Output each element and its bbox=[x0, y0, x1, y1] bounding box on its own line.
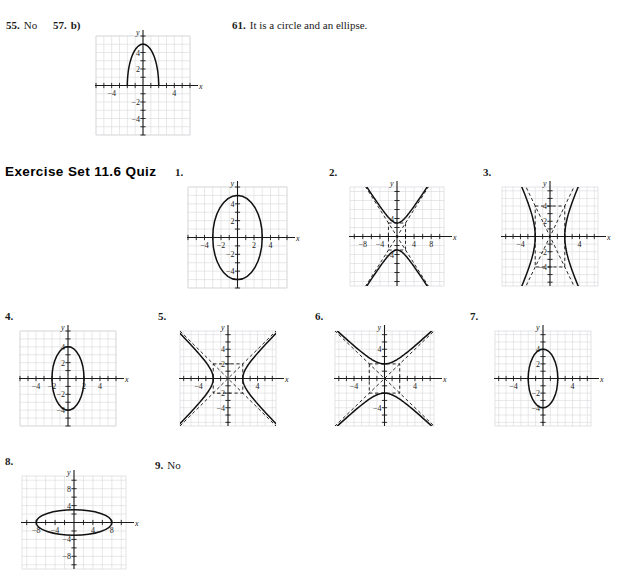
svg-text:y: y bbox=[66, 468, 71, 477]
svg-text:8: 8 bbox=[429, 240, 433, 249]
graph-8: xy−8−448−8−448 bbox=[20, 467, 140, 579]
svg-text:4: 4 bbox=[221, 345, 225, 354]
svg-text:−4: −4 bbox=[538, 263, 547, 272]
svg-text:y: y bbox=[60, 323, 65, 332]
svg-text:x: x bbox=[442, 375, 447, 384]
item-label-7: 7. bbox=[470, 310, 478, 322]
answer-61: 61. It is a circle and an ellipse. bbox=[232, 15, 367, 33]
svg-text:−2: −2 bbox=[217, 241, 226, 250]
svg-text:4: 4 bbox=[98, 382, 102, 391]
answer-55-text: No bbox=[24, 19, 37, 31]
svg-text:x: x bbox=[198, 82, 203, 91]
item-label-8: 8. bbox=[5, 455, 13, 467]
item-label-1: 1. bbox=[175, 166, 183, 178]
answer-61-text: It is a circle and an ellipse. bbox=[250, 19, 368, 31]
svg-text:y: y bbox=[220, 323, 225, 332]
answer-57-text: b) bbox=[71, 19, 81, 31]
graph-8-svg: xy−8−448−8−448 bbox=[20, 467, 140, 579]
graph-2: xy−8−448−44 bbox=[348, 178, 458, 296]
svg-text:4: 4 bbox=[571, 382, 575, 391]
graph-1: xy−4−224−4−224 bbox=[186, 178, 301, 298]
svg-text:−4: −4 bbox=[373, 404, 382, 413]
svg-text:x: x bbox=[606, 233, 611, 242]
svg-text:4: 4 bbox=[231, 200, 235, 209]
svg-text:x: x bbox=[295, 234, 300, 243]
svg-text:4: 4 bbox=[136, 49, 140, 58]
svg-text:−4: −4 bbox=[200, 241, 209, 250]
answer-57-number: 57. bbox=[53, 19, 67, 31]
svg-text:−4: −4 bbox=[131, 115, 140, 124]
svg-text:−8: −8 bbox=[62, 552, 71, 561]
svg-text:y: y bbox=[542, 179, 547, 188]
svg-text:2: 2 bbox=[543, 217, 547, 226]
svg-text:−4: −4 bbox=[107, 89, 116, 98]
svg-text:4: 4 bbox=[412, 240, 416, 249]
svg-text:4: 4 bbox=[378, 345, 382, 354]
graph-4: xy−4−224−4−224 bbox=[18, 322, 130, 436]
svg-text:−4: −4 bbox=[509, 382, 518, 391]
answer-61-number: 61. bbox=[232, 19, 246, 31]
graph-1-svg: xy−4−224−4−224 bbox=[186, 178, 301, 298]
svg-text:−2: −2 bbox=[216, 389, 225, 398]
svg-text:4: 4 bbox=[543, 202, 547, 211]
svg-text:8: 8 bbox=[67, 485, 71, 494]
svg-text:2: 2 bbox=[221, 360, 225, 369]
svg-text:y: y bbox=[535, 323, 540, 332]
svg-text:x: x bbox=[599, 375, 604, 384]
answer-9-text: No bbox=[167, 459, 180, 471]
answer-55-number: 55. bbox=[6, 19, 20, 31]
graph-3-svg: xy−44−4−224 bbox=[500, 178, 612, 296]
svg-text:2: 2 bbox=[536, 360, 540, 369]
svg-text:y: y bbox=[230, 179, 235, 188]
answer-57: 57. b) bbox=[53, 15, 81, 33]
graph-6: xy−44−44 bbox=[333, 322, 448, 436]
svg-text:4: 4 bbox=[172, 89, 176, 98]
graph-6-svg: xy−44−44 bbox=[333, 322, 448, 436]
answer-55: 55. No bbox=[6, 15, 37, 33]
svg-text:−4: −4 bbox=[516, 240, 525, 249]
section-heading: Exercise Set 11.6 Quiz bbox=[5, 164, 156, 179]
svg-text:2: 2 bbox=[61, 359, 65, 368]
graph-57b-svg: xy−44−4−224 bbox=[94, 27, 204, 145]
svg-text:y: y bbox=[389, 179, 394, 188]
graph-4-svg: xy−4−224−4−224 bbox=[18, 322, 130, 436]
svg-text:4: 4 bbox=[256, 382, 260, 391]
svg-text:−2: −2 bbox=[226, 250, 235, 259]
svg-text:x: x bbox=[452, 233, 457, 242]
graph-2-svg: xy−8−448−44 bbox=[348, 178, 458, 296]
svg-text:−4: −4 bbox=[226, 267, 235, 276]
svg-text:4: 4 bbox=[578, 240, 582, 249]
svg-text:y: y bbox=[377, 323, 382, 332]
item-label-5: 5. bbox=[158, 310, 166, 322]
graph-7-svg: xy−44−4−224 bbox=[493, 322, 605, 436]
svg-text:y: y bbox=[135, 28, 140, 37]
svg-text:4: 4 bbox=[269, 241, 273, 250]
svg-text:−4: −4 bbox=[216, 404, 225, 413]
svg-text:−4: −4 bbox=[194, 382, 203, 391]
svg-text:2: 2 bbox=[252, 241, 256, 250]
svg-text:−2: −2 bbox=[531, 389, 540, 398]
answer-9-number: 9. bbox=[155, 459, 163, 471]
svg-text:−2: −2 bbox=[56, 390, 65, 399]
svg-text:2: 2 bbox=[136, 65, 140, 74]
graph-7: xy−44−4−224 bbox=[493, 322, 605, 436]
graph-5: xy−44−4−224 bbox=[178, 322, 290, 436]
svg-text:−4: −4 bbox=[376, 240, 385, 249]
item-label-2: 2. bbox=[329, 166, 337, 178]
svg-text:−4: −4 bbox=[62, 535, 71, 544]
graph-57b: xy−44−4−224 bbox=[94, 27, 204, 145]
item-label-3: 3. bbox=[483, 166, 491, 178]
svg-text:4: 4 bbox=[413, 382, 417, 391]
answer-9: 9. No bbox=[155, 455, 181, 473]
item-label-4: 4. bbox=[5, 310, 13, 322]
svg-text:x: x bbox=[124, 375, 129, 384]
graph-3: xy−44−4−224 bbox=[500, 178, 612, 296]
svg-text:2: 2 bbox=[231, 217, 235, 226]
svg-text:−2: −2 bbox=[131, 98, 140, 107]
item-label-6: 6. bbox=[315, 310, 323, 322]
svg-text:−4: −4 bbox=[350, 382, 359, 391]
svg-text:x: x bbox=[134, 519, 139, 528]
svg-text:x: x bbox=[284, 375, 289, 384]
svg-text:−8: −8 bbox=[359, 240, 368, 249]
svg-text:−4: −4 bbox=[32, 382, 41, 391]
